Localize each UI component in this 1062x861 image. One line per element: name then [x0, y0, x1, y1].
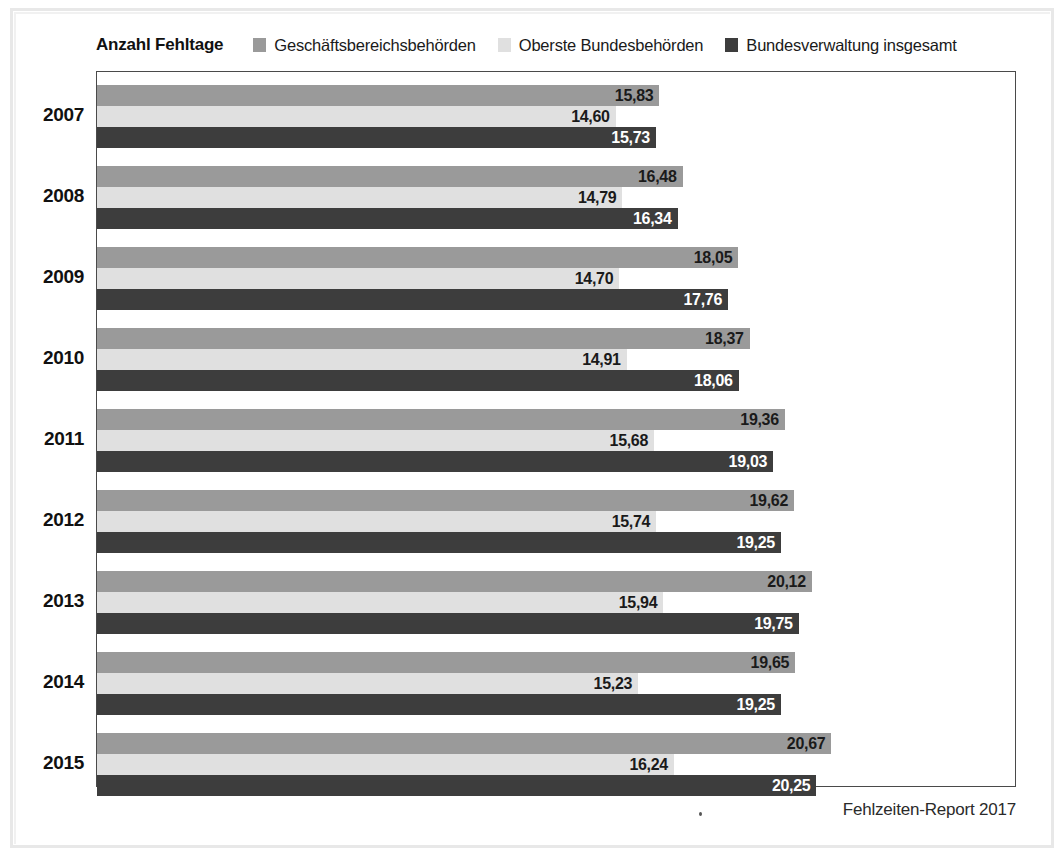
y-axis-label-2012: 2012 [0, 509, 84, 531]
axis-title: Anzahl Fehltage [96, 35, 223, 55]
bar-row: 19,75 [97, 613, 1015, 634]
bar-value-label: 15,94 [601, 592, 657, 613]
bar-2015-series-1[interactable] [97, 733, 831, 754]
bar-group-2009: 18,0514,7017,76 [97, 247, 1015, 310]
bar-group-2007: 15,8314,6015,73 [97, 85, 1015, 148]
bar-row: 18,06 [97, 370, 1015, 391]
bar-2014-series-1[interactable] [97, 652, 795, 673]
bar-2007-series-3[interactable] [97, 127, 656, 148]
bar-value-label: 15,68 [592, 430, 648, 451]
bar-row: 15,73 [97, 127, 1015, 148]
bar-group-2011: 19,3615,6819,03 [97, 409, 1015, 472]
bar-value-label: 15,73 [594, 127, 650, 148]
bar-2012-series-2[interactable] [97, 511, 656, 532]
bar-row: 15,68 [97, 430, 1015, 451]
bar-2009-series-1[interactable] [97, 247, 738, 268]
legend-label: Geschäftsbereichsbehörden [274, 36, 475, 55]
legend-item-geschaeftsbereichsbehoerden[interactable]: Geschäftsbereichsbehörden [253, 36, 475, 55]
bar-2009-series-2[interactable] [97, 268, 619, 289]
bar-2011-series-2[interactable] [97, 430, 654, 451]
bar-row: 18,37 [97, 328, 1015, 349]
bar-2012-series-3[interactable] [97, 532, 781, 553]
legend-swatch-icon [253, 38, 266, 52]
bar-row: 14,60 [97, 106, 1015, 127]
bar-2012-series-1[interactable] [97, 490, 794, 511]
bar-value-label: 16,34 [616, 208, 672, 229]
bar-group-2014: 19,6515,2319,25 [97, 652, 1015, 715]
bar-row: 19,03 [97, 451, 1015, 472]
legend-swatch-icon [725, 38, 738, 52]
bar-2011-series-3[interactable] [97, 451, 773, 472]
bar-row: 16,48 [97, 166, 1015, 187]
bar-2010-series-1[interactable] [97, 328, 750, 349]
bar-group-2012: 19,6215,7419,25 [97, 490, 1015, 553]
bar-value-label: 19,25 [719, 532, 775, 553]
chart-source-note: Fehlzeiten-Report 2017 [843, 800, 1016, 820]
bar-row: 14,91 [97, 349, 1015, 370]
bar-2007-series-2[interactable] [97, 106, 616, 127]
y-axis-label-2008: 2008 [0, 185, 84, 207]
bar-2011-series-1[interactable] [97, 409, 785, 430]
bar-2015-series-2[interactable] [97, 754, 674, 775]
bar-2014-series-2[interactable] [97, 673, 638, 694]
bar-value-label: 17,76 [666, 289, 722, 310]
bar-value-label: 16,24 [612, 754, 668, 775]
bar-row: 14,79 [97, 187, 1015, 208]
bar-2008-series-1[interactable] [97, 166, 683, 187]
bar-row: 15,94 [97, 592, 1015, 613]
y-axis-label-2007: 2007 [0, 104, 84, 126]
bar-row: 19,65 [97, 652, 1015, 673]
bar-value-label: 15,74 [594, 511, 650, 532]
bar-row: 19,25 [97, 532, 1015, 553]
bar-row: 19,62 [97, 490, 1015, 511]
bar-2009-series-3[interactable] [97, 289, 728, 310]
bars-container: 15,8314,6015,7316,4814,7916,3418,0514,70… [97, 72, 1015, 786]
bar-2010-series-3[interactable] [97, 370, 739, 391]
bar-2013-series-1[interactable] [97, 571, 812, 592]
bar-value-label: 18,37 [688, 328, 744, 349]
bar-group-2010: 18,3714,9118,06 [97, 328, 1015, 391]
y-axis-label-2013: 2013 [0, 590, 84, 612]
bar-2013-series-3[interactable] [97, 613, 799, 634]
y-axis-label-2009: 2009 [0, 266, 84, 288]
bar-value-label: 15,23 [576, 673, 632, 694]
bar-row: 14,70 [97, 268, 1015, 289]
bar-value-label: 19,25 [719, 694, 775, 715]
bar-row: 19,36 [97, 409, 1015, 430]
legend-item-oberste-bundesbehoerden[interactable]: Oberste Bundesbehörden [498, 36, 704, 55]
legend-item-bundesverwaltung-insgesamt[interactable]: Bundesverwaltung insgesamt [725, 36, 956, 55]
bar-2010-series-2[interactable] [97, 349, 627, 370]
bar-row: 20,67 [97, 733, 1015, 754]
bar-value-label: 16,48 [621, 166, 677, 187]
bar-2015-series-3[interactable] [97, 775, 816, 796]
bar-value-label: 18,05 [676, 247, 732, 268]
bar-row: 15,74 [97, 511, 1015, 532]
legend-label: Bundesverwaltung insgesamt [746, 36, 956, 55]
bar-row: 18,05 [97, 247, 1015, 268]
bar-group-2015: 20,6716,2420,25 [97, 733, 1015, 796]
chart-legend: Anzahl Fehltage Geschäftsbereichsbehörde… [96, 33, 979, 57]
bar-value-label: 20,67 [769, 733, 825, 754]
bar-row: 19,25 [97, 694, 1015, 715]
legend-swatch-icon [498, 38, 511, 52]
bar-2014-series-3[interactable] [97, 694, 781, 715]
scan-artifact [699, 812, 702, 816]
bar-2007-series-1[interactable] [97, 85, 659, 106]
bar-value-label: 19,75 [737, 613, 793, 634]
bar-value-label: 14,70 [557, 268, 613, 289]
bar-2008-series-3[interactable] [97, 208, 678, 229]
bar-2013-series-2[interactable] [97, 592, 663, 613]
bar-2008-series-2[interactable] [97, 187, 622, 208]
bar-value-label: 15,83 [597, 85, 653, 106]
bar-group-2008: 16,4814,7916,34 [97, 166, 1015, 229]
y-axis-label-2011: 2011 [0, 428, 84, 450]
bar-row: 15,83 [97, 85, 1015, 106]
bar-value-label: 20,12 [750, 571, 806, 592]
bar-row: 20,12 [97, 571, 1015, 592]
chart-page: Anzahl Fehltage Geschäftsbereichsbehörde… [0, 0, 1062, 861]
bar-value-label: 14,91 [565, 349, 621, 370]
bar-row: 17,76 [97, 289, 1015, 310]
bar-group-2013: 20,1215,9419,75 [97, 571, 1015, 634]
plot-area: 15,8314,6015,7316,4814,7916,3418,0514,70… [96, 71, 1016, 787]
bar-row: 20,25 [97, 775, 1015, 796]
